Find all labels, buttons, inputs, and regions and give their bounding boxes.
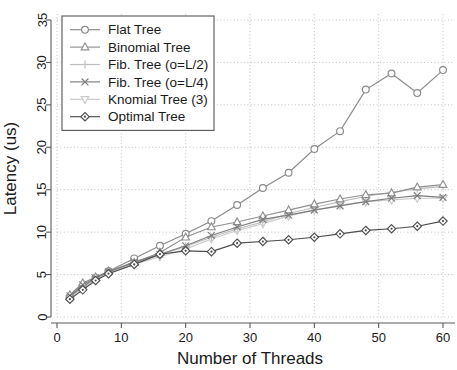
series-line [70,196,443,296]
series-line [70,198,443,298]
latency-vs-threads-chart: 051015202530350102030405060Number of Thr… [0,0,457,370]
marker-circle [234,202,241,209]
legend-label: Flat Tree [108,22,161,37]
marker-circle [414,90,421,97]
series-knomial-tree-3 [66,195,447,302]
marker-diamond-center [442,220,444,222]
marker-diamond-center [365,229,367,231]
marker-diamond-center [69,298,71,300]
marker-diamond-center [339,233,341,235]
marker-diamond-center [82,289,84,291]
marker-diamond-center [313,236,315,238]
series-optimal-tree [66,217,448,303]
marker-circle [82,26,89,33]
y-tick-label: 35 [35,13,50,27]
legend-label: Optimal Tree [108,109,185,124]
y-tick-label: 10 [35,225,50,239]
y-axis-label: Latency (us) [1,122,20,216]
x-axis-label: Number of Threads [177,349,323,368]
legend-label: Knomial Tree (3) [108,92,208,107]
marker-diamond-center [416,225,418,227]
marker-diamond-center [185,250,187,252]
marker-circle [337,128,344,135]
marker-diamond-center [159,253,161,255]
chart-legend: Flat TreeBinomial TreeFib. Tree (o=L/2)F… [62,16,214,130]
x-tick-label: 50 [371,330,385,345]
marker-diamond-center [84,116,86,118]
marker-triangle-up [439,181,447,188]
marker-circle [311,146,318,153]
y-tick-label: 20 [35,140,50,154]
marker-diamond-center [288,239,290,241]
marker-circle [388,70,395,77]
x-tick-label: 10 [114,330,128,345]
marker-diamond-center [107,273,109,275]
marker-diamond-center [95,279,97,281]
marker-circle [362,86,369,93]
y-tick-label: 25 [35,98,50,112]
series-line [70,221,443,299]
marker-circle [440,67,447,74]
y-tick-label: 15 [35,182,50,196]
marker-diamond-center [390,228,392,230]
marker-diamond-center [210,251,212,253]
y-tick-label: 5 [35,271,50,278]
y-tick-label: 30 [35,55,50,69]
legend-label: Fib. Tree (o=L/4) [108,75,208,90]
marker-circle [285,169,292,176]
series-fib-tree-o-l-4 [66,192,446,299]
legend-label: Binomial Tree [108,40,191,55]
x-tick-label: 0 [53,330,60,345]
y-tick-label: 0 [35,313,50,320]
series-line [70,185,443,295]
marker-diamond-center [133,263,135,265]
legend-label: Fib. Tree (o=L/2) [108,57,208,72]
x-tick-label: 40 [307,330,321,345]
x-tick-label: 20 [178,330,192,345]
marker-diamond-center [262,240,264,242]
marker-diamond-center [236,242,238,244]
marker-circle [259,185,266,192]
marker-triangle-down [439,195,447,202]
chart-svg: 051015202530350102030405060Number of Thr… [0,0,457,370]
x-tick-label: 30 [243,330,257,345]
x-tick-label: 60 [436,330,450,345]
